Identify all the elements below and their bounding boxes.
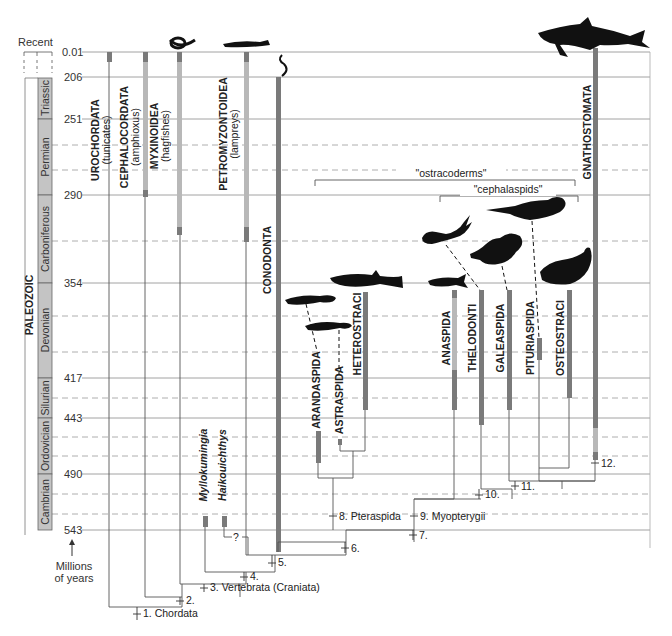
astraspid-silhouette-icon bbox=[305, 322, 352, 331]
hagfish-silhouette-icon bbox=[170, 38, 195, 48]
unit-label-2: of years bbox=[54, 572, 94, 584]
recent-label: Recent bbox=[18, 36, 53, 48]
period-permian: Permian bbox=[39, 137, 51, 176]
galeaspid-silhouette-icon bbox=[470, 233, 522, 264]
group-ostracoderms: "ostracoderms" bbox=[415, 167, 486, 179]
node-5: 5. bbox=[278, 556, 287, 568]
pituriaspid-silhouette-icon bbox=[486, 197, 566, 220]
uncertain-node: ? bbox=[233, 531, 239, 543]
node-10: 10. bbox=[485, 488, 500, 500]
osteostracan-silhouette-icon bbox=[540, 248, 592, 285]
period-silurian: Silurian bbox=[39, 380, 51, 415]
tick-251: 251 bbox=[64, 113, 82, 125]
time-axis: Recent PALEOZOIC Triassic Permian Carbon… bbox=[18, 36, 94, 584]
vertebrate-phylogeny-diagram: Recent PALEOZOIC Triassic Permian Carbon… bbox=[0, 0, 672, 636]
anaspid-silhouette-icon bbox=[428, 274, 468, 288]
thelodont-silhouette-icon bbox=[422, 215, 472, 244]
taxon-labels: UROCHORDATA (tunicates) CEPHALOCORDATA (… bbox=[89, 77, 593, 502]
lamprey-silhouette-icon bbox=[223, 40, 270, 47]
era-paleozoic: PALEOZOIC bbox=[23, 274, 35, 335]
period-triassic: Triassic bbox=[39, 80, 51, 116]
taxon-heterostraci: HETEROSTRACI bbox=[351, 293, 363, 376]
tick-0.01: 0.01 bbox=[62, 46, 83, 58]
node-11: 11. bbox=[521, 480, 535, 492]
tick-543: 543 bbox=[64, 524, 82, 536]
node-3-vertebrata: 3. Vertebrata (Craniata) bbox=[210, 581, 320, 593]
taxon-cephalochordata-common: (amphioxus) bbox=[129, 108, 141, 166]
period-ordovician: Ordovician bbox=[39, 421, 51, 471]
tick-490: 490 bbox=[64, 468, 82, 480]
period-carboniferous: Carboniferous bbox=[39, 206, 51, 272]
tick-443: 443 bbox=[64, 412, 82, 424]
taxon-myllokunmingia: Myllokumingia bbox=[197, 428, 209, 501]
taxon-osteostraci: OSTEOSTRACI bbox=[554, 300, 566, 376]
taxon-urochordata-common: (tunicates) bbox=[100, 115, 112, 164]
taxon-conodonta: CONODONTA bbox=[261, 226, 273, 294]
tick-206: 206 bbox=[64, 71, 82, 83]
arandaspid-silhouette-icon bbox=[285, 295, 336, 304]
period-devonian: Devonian bbox=[39, 308, 51, 353]
arrow-up-icon bbox=[69, 539, 75, 556]
node-2: 2. bbox=[186, 594, 195, 606]
node-12: 12. bbox=[601, 457, 616, 469]
tick-354: 354 bbox=[64, 277, 82, 289]
taxon-anaspida: ANASPIDA bbox=[440, 310, 452, 365]
group-cephalaspids: "cephalaspids" bbox=[474, 183, 543, 195]
taxon-gnathostomata: GNATHOSTOMATA bbox=[581, 84, 593, 179]
taxon-pituriaspida: PITURIASPIDA bbox=[524, 301, 536, 376]
unit-label-1: Millions bbox=[56, 560, 93, 572]
conodont-silhouette-icon bbox=[280, 55, 287, 76]
taxon-myxinoidea-common: (hagfishes) bbox=[159, 110, 171, 162]
tick-417: 417 bbox=[64, 372, 82, 384]
node-4: 4. bbox=[250, 570, 259, 582]
taxon-petromyzontoidea-common: (lampreys) bbox=[228, 109, 240, 159]
period-cambrian: Cambrian bbox=[39, 479, 51, 525]
node-7: 7. bbox=[419, 529, 428, 541]
taxon-thelodonti: THELODONTI bbox=[466, 304, 478, 372]
taxon-arandaspida: ARANDASPIDA bbox=[310, 351, 322, 429]
taxon-haikouichthys: Haikouichthys bbox=[216, 429, 228, 501]
node-8-pteraspida: 8. Pteraspida bbox=[339, 510, 401, 522]
node-6: 6. bbox=[351, 542, 360, 554]
tick-290: 290 bbox=[64, 189, 82, 201]
taxon-galeaspida: GALEASPIDA bbox=[494, 303, 506, 372]
heterostracan-silhouette-icon bbox=[330, 270, 403, 288]
node-1-chordata: 1. Chordata bbox=[143, 607, 198, 619]
taxon-astraspida: ASTRASPIDA bbox=[333, 365, 345, 434]
node-9-myopterygii: 9. Myopterygii bbox=[420, 510, 485, 522]
